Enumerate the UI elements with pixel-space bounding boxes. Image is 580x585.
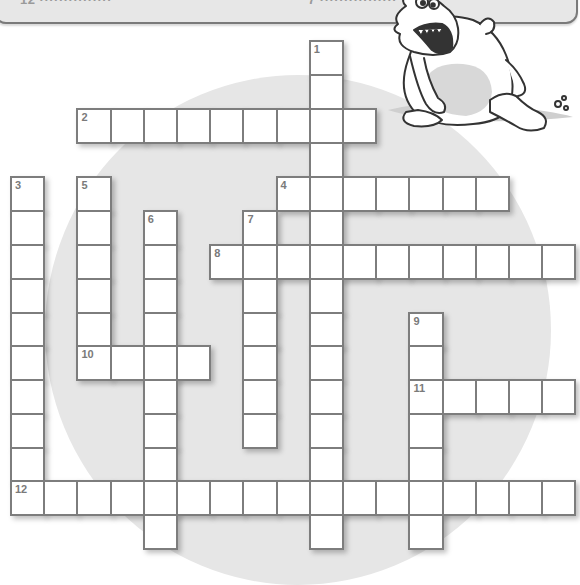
crossword-cell[interactable] xyxy=(309,480,344,516)
crossword-cell[interactable] xyxy=(309,244,344,280)
crossword-cell[interactable] xyxy=(442,480,477,516)
crossword-cell[interactable] xyxy=(10,278,45,314)
crossword-cell[interactable] xyxy=(110,480,145,516)
crossword-cell[interactable] xyxy=(408,345,443,381)
crossword-cell[interactable] xyxy=(309,74,344,110)
crossword-cell[interactable] xyxy=(342,108,377,144)
crossword-cell[interactable] xyxy=(508,379,543,415)
clue-number: 7 xyxy=(247,213,253,225)
crossword-cell[interactable] xyxy=(541,379,576,415)
crossword-cell[interactable]: 8 xyxy=(209,244,244,280)
clue-number: 12 xyxy=(15,483,27,495)
crossword-cell[interactable] xyxy=(176,345,211,381)
crossword-cell[interactable] xyxy=(10,210,45,246)
crossword-cell[interactable] xyxy=(10,447,45,483)
crossword-cell[interactable] xyxy=(342,480,377,516)
crossword-cell[interactable] xyxy=(176,108,211,144)
crossword-cell[interactable] xyxy=(475,244,510,280)
crossword-cell[interactable] xyxy=(143,413,178,449)
crossword-cell[interactable] xyxy=(10,379,45,415)
crossword-cell[interactable] xyxy=(442,176,477,212)
crossword-cell[interactable] xyxy=(209,108,244,144)
crossword-cell[interactable] xyxy=(309,447,344,483)
crossword-cell[interactable] xyxy=(76,210,111,246)
crossword-cell[interactable] xyxy=(143,379,178,415)
crossword-cell[interactable] xyxy=(10,413,45,449)
crossword-cell[interactable]: 10 xyxy=(76,345,111,381)
crossword-cell[interactable]: 5 xyxy=(76,176,111,212)
crossword-cell[interactable] xyxy=(242,108,277,144)
crossword-cell[interactable] xyxy=(43,480,78,516)
crossword-cell[interactable] xyxy=(442,379,477,415)
crossword-cell[interactable] xyxy=(408,244,443,280)
crossword-cell[interactable]: 7 xyxy=(242,210,277,246)
crossword-cell[interactable] xyxy=(309,278,344,314)
crossword-cell[interactable]: 9 xyxy=(408,312,443,348)
crossword-cell[interactable] xyxy=(475,379,510,415)
crossword-cell[interactable] xyxy=(143,278,178,314)
crossword-cell[interactable] xyxy=(143,345,178,381)
crossword-cell[interactable] xyxy=(541,480,576,516)
crossword-cell[interactable]: 3 xyxy=(10,176,45,212)
crossword-cell[interactable] xyxy=(309,108,344,144)
crossword-cell[interactable] xyxy=(408,413,443,449)
crossword-cell[interactable] xyxy=(309,210,344,246)
clue-number: 8 xyxy=(214,247,220,259)
crossword-cell[interactable] xyxy=(143,514,178,550)
crossword-cell[interactable] xyxy=(276,108,311,144)
crossword-cell[interactable] xyxy=(143,447,178,483)
crossword-cell[interactable] xyxy=(76,480,111,516)
crossword-cell[interactable] xyxy=(110,108,145,144)
crossword-cell[interactable] xyxy=(508,480,543,516)
crossword-cell[interactable] xyxy=(342,176,377,212)
crossword-cell[interactable] xyxy=(309,514,344,550)
crossword-cell[interactable] xyxy=(143,244,178,280)
crossword-cell[interactable] xyxy=(408,514,443,550)
crossword-cell[interactable] xyxy=(242,413,277,449)
crossword-cell[interactable] xyxy=(276,244,311,280)
crossword-cell[interactable] xyxy=(10,345,45,381)
crossword-cell[interactable] xyxy=(475,176,510,212)
crossword-cell[interactable] xyxy=(76,312,111,348)
crossword-cell[interactable] xyxy=(143,480,178,516)
crossword-cell[interactable]: 11 xyxy=(408,379,443,415)
crossword-cell[interactable] xyxy=(10,244,45,280)
crossword-cell[interactable] xyxy=(143,108,178,144)
crossword-cell[interactable] xyxy=(408,447,443,483)
crossword-cell[interactable] xyxy=(76,244,111,280)
crossword-cell[interactable] xyxy=(375,176,410,212)
crossword-cell[interactable] xyxy=(110,345,145,381)
crossword-cell[interactable] xyxy=(475,480,510,516)
crossword-cell[interactable] xyxy=(309,176,344,212)
crossword-cell[interactable] xyxy=(408,480,443,516)
crossword-cell[interactable]: 12 xyxy=(10,480,45,516)
crossword-cell[interactable] xyxy=(309,345,344,381)
crossword-cell[interactable] xyxy=(242,379,277,415)
crossword-cell[interactable] xyxy=(408,176,443,212)
crossword-cell[interactable] xyxy=(508,244,543,280)
crossword-cell[interactable] xyxy=(209,480,244,516)
crossword-cell[interactable]: 1 xyxy=(309,40,344,76)
crossword-cell[interactable] xyxy=(242,278,277,314)
crossword-cell[interactable] xyxy=(242,312,277,348)
crossword-cell[interactable] xyxy=(76,278,111,314)
crossword-cell[interactable] xyxy=(375,480,410,516)
crossword-cell[interactable] xyxy=(276,480,311,516)
crossword-cell[interactable] xyxy=(442,244,477,280)
crossword-cell[interactable] xyxy=(309,142,344,178)
crossword-cell[interactable] xyxy=(342,244,377,280)
crossword-cell[interactable] xyxy=(242,345,277,381)
crossword-cell[interactable] xyxy=(242,480,277,516)
crossword-cell[interactable]: 4 xyxy=(276,176,311,212)
crossword-cell[interactable] xyxy=(375,244,410,280)
crossword-cell[interactable] xyxy=(242,244,277,280)
crossword-cell[interactable] xyxy=(143,312,178,348)
crossword-cell[interactable] xyxy=(309,312,344,348)
crossword-cell[interactable] xyxy=(541,244,576,280)
crossword-cell[interactable]: 6 xyxy=(143,210,178,246)
crossword-cell[interactable] xyxy=(176,480,211,516)
crossword-cell[interactable]: 2 xyxy=(76,108,111,144)
crossword-cell[interactable] xyxy=(10,312,45,348)
crossword-cell[interactable] xyxy=(309,379,344,415)
crossword-cell[interactable] xyxy=(309,413,344,449)
